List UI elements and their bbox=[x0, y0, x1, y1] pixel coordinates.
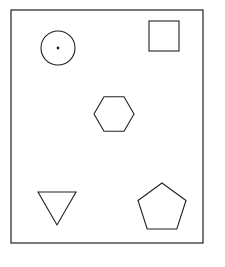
square-shape bbox=[149, 21, 179, 51]
circle-center-dot-icon bbox=[57, 47, 60, 50]
figure-root: Geometric shapes inside a rectangular fr… bbox=[0, 0, 225, 267]
shapes-figure-canvas: Geometric shapes inside a rectangular fr… bbox=[0, 0, 225, 267]
